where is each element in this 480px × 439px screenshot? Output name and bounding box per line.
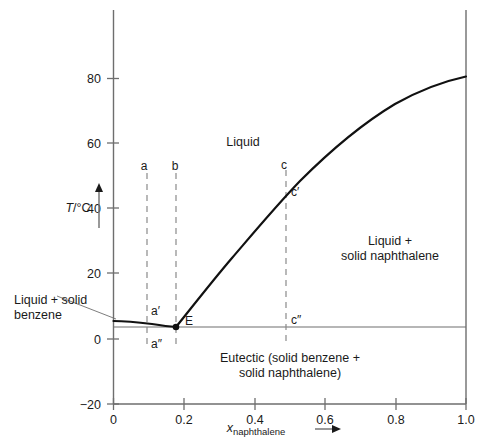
region-label-eutectic: Eutectic (solid benzene + solid naphthal… [220, 351, 360, 380]
region-label-liquid-solid-naphthalene-line1: Liquid + [368, 234, 412, 248]
point-label-eutectic-E: E [185, 314, 193, 328]
x-tick-label-0-4: 0.4 [246, 413, 263, 427]
region-label-eutectic-line1: Eutectic (solid benzene + [220, 351, 360, 365]
benzene-liquidus-curve [114, 321, 177, 327]
point-label-a: a [141, 159, 148, 173]
region-label-liquid-solid-naphthalene: Liquid + solid naphthalene [341, 234, 439, 263]
point-label-c-prime: c′ [291, 185, 300, 199]
y-tick-label-0: 0 [94, 333, 101, 347]
y-tick-labels-group: 80 60 40 20 0 −20 [80, 72, 101, 412]
eutectic-point-marker [173, 324, 180, 331]
y-tick-label-neg20: −20 [80, 398, 101, 412]
region-label-liquid-solid-benzene: Liquid + solid benzene [14, 293, 87, 322]
x-tick-label-0-8: 0.8 [387, 413, 404, 427]
phase-diagram-svg: 80 60 40 20 0 −20 0 0.2 0.4 0.6 0.8 1.0 [0, 0, 480, 439]
region-label-liquid: Liquid [226, 135, 259, 149]
x-tick-label-0-2: 0.2 [175, 413, 192, 427]
axes-group [114, 10, 467, 404]
naphthalene-liquidus-curve [176, 77, 466, 328]
region-label-liquid-solid-naphthalene-line2: solid naphthalene [341, 249, 439, 263]
point-label-a-double-prime: a″ [151, 337, 163, 351]
y-tick-label-20: 20 [87, 267, 101, 281]
point-label-a-prime: a′ [151, 304, 161, 318]
point-label-b: b [172, 159, 179, 173]
point-label-c-double-prime: c″ [291, 313, 302, 327]
isopleth-lines-group [147, 170, 286, 347]
x-axis-direction-arrow-head [332, 425, 341, 433]
y-axis-unit: °C [77, 201, 91, 215]
point-label-c: c [281, 158, 287, 172]
y-tick-label-80: 80 [87, 72, 101, 86]
point-labels-group: a a′ a″ b c c′ c″ E [141, 158, 302, 351]
x-tick-labels-group: 0 0.2 0.4 0.6 0.8 1.0 [110, 413, 475, 427]
region-label-liquid-solid-benzene-line2: benzene [14, 308, 62, 322]
x-tick-label-0-6: 0.6 [316, 413, 333, 427]
x-axis-subscript: naphthalene [233, 426, 285, 437]
y-axis-label: T/°C [65, 201, 90, 215]
x-tick-label-0: 0 [110, 413, 117, 427]
region-label-liquid-solid-benzene-line1: Liquid + solid [14, 293, 87, 307]
region-label-eutectic-line2: solid naphthalene) [239, 366, 341, 380]
x-tick-label-1-0: 1.0 [457, 413, 474, 427]
y-tick-label-60: 60 [87, 137, 101, 151]
y-axis-direction-arrow-head [95, 183, 103, 192]
phase-diagram-figure: 80 60 40 20 0 −20 0 0.2 0.4 0.6 0.8 1.0 [0, 0, 480, 439]
